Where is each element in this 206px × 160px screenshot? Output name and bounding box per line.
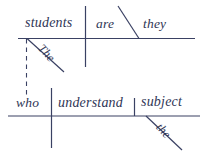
label-subject-students: students: [25, 16, 73, 30]
label-predicate-nominative-they: they: [143, 17, 166, 31]
label-relative-subject-who: who: [16, 96, 39, 110]
predicate-nominative-slant: [118, 6, 139, 39]
label-relative-verb-understand: understand: [58, 96, 123, 110]
label-direct-object-subject: subject: [141, 95, 182, 109]
sentence-diagram: students are they The who understand sub…: [0, 0, 206, 160]
label-verb-are: are: [96, 17, 114, 31]
